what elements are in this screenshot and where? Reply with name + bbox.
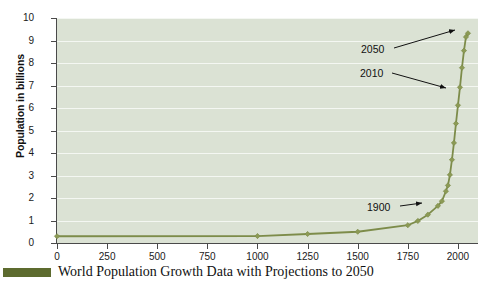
x-tick-mark xyxy=(358,243,359,249)
y-tick-mark xyxy=(51,131,56,132)
y-tick-label: 0 xyxy=(14,238,34,248)
gridline xyxy=(57,18,478,19)
y-tick-label: 2 xyxy=(14,193,34,203)
gridline xyxy=(57,108,478,109)
x-tick-mark xyxy=(458,243,459,249)
x-tick-label: 1000 xyxy=(237,251,277,262)
gridline xyxy=(57,153,478,154)
gridline xyxy=(57,86,478,87)
x-tick-mark xyxy=(157,243,158,249)
y-tick-mark xyxy=(51,198,56,199)
y-tick-mark xyxy=(51,153,56,154)
caption: World Population Growth Data with Projec… xyxy=(0,265,496,281)
y-tick-mark xyxy=(51,63,56,64)
chart-figure: 012345678910 025050075010001250150017502… xyxy=(0,0,496,281)
y-tick-mark xyxy=(51,86,56,87)
plot-area xyxy=(57,18,478,243)
x-axis-line xyxy=(56,243,478,244)
gridline xyxy=(57,41,478,42)
x-tick-mark xyxy=(308,243,309,249)
x-tick-label: 750 xyxy=(187,251,227,262)
gridline xyxy=(57,131,478,132)
annotation-label: 2050 xyxy=(361,44,384,55)
gridline xyxy=(57,176,478,177)
gridline xyxy=(57,63,478,64)
y-tick-label: 10 xyxy=(14,13,34,23)
y-tick-mark xyxy=(51,176,56,177)
annotation-label: 1900 xyxy=(367,202,390,213)
x-tick-label: 0 xyxy=(37,251,77,262)
y-tick-mark xyxy=(51,41,56,42)
x-tick-label: 250 xyxy=(87,251,127,262)
x-tick-label: 500 xyxy=(137,251,177,262)
x-tick-mark xyxy=(257,243,258,249)
x-tick-mark xyxy=(107,243,108,249)
caption-swatch xyxy=(3,268,51,277)
y-axis-title: Population in billions xyxy=(14,36,26,176)
x-tick-label: 1750 xyxy=(388,251,428,262)
y-tick-mark xyxy=(51,108,56,109)
y-tick-label: 1 xyxy=(14,216,34,226)
gridline xyxy=(57,198,478,199)
caption-text: World Population Growth Data with Projec… xyxy=(58,265,374,280)
x-tick-mark xyxy=(207,243,208,249)
annotation-label: 2010 xyxy=(360,68,383,79)
gridline xyxy=(57,221,478,222)
x-tick-mark xyxy=(408,243,409,249)
y-tick-mark xyxy=(51,243,56,244)
x-tick-label: 1250 xyxy=(288,251,328,262)
y-tick-mark xyxy=(51,221,56,222)
y-tick-mark xyxy=(51,18,56,19)
y-axis-line xyxy=(56,18,57,244)
x-tick-mark xyxy=(57,243,58,249)
x-tick-label: 1500 xyxy=(338,251,378,262)
x-tick-label: 2000 xyxy=(438,251,478,262)
